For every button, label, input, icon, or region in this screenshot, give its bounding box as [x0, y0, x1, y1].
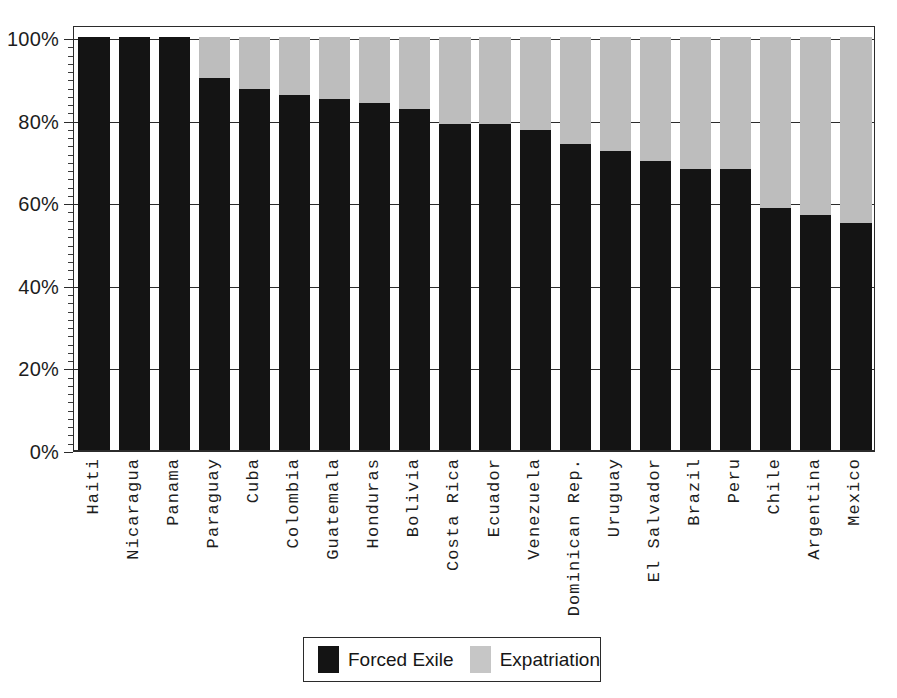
gridline-20 [74, 369, 874, 370]
bar-segment-forced-exile [199, 78, 230, 450]
bar-column [279, 37, 310, 450]
bar-segment-expatriation [239, 37, 270, 89]
x-axis-label: Brazil [675, 458, 715, 630]
x-axis-label: Argentina [795, 458, 835, 630]
bar-segment-forced-exile [399, 109, 430, 450]
x-axis-label: Ecuador [474, 458, 514, 630]
x-axis-label-text: Nicaragua [125, 458, 142, 560]
bar-column [600, 37, 631, 450]
bar-segment-forced-exile [119, 37, 150, 450]
x-axis-label: Peru [715, 458, 755, 630]
x-axis-label: Mexico [835, 458, 875, 630]
x-axis-label: Guatemala [314, 458, 354, 630]
x-axis-label-text: Bolivia [405, 458, 422, 537]
bar-column [78, 37, 109, 450]
bar-column [399, 37, 430, 450]
y-tick-label-0%: 0% [30, 441, 59, 464]
bar-column [720, 37, 751, 450]
x-axis-label-text: Chile [766, 458, 783, 515]
bar-column [760, 37, 791, 450]
bar-column [520, 37, 551, 450]
x-axis-label-text: Paraguay [205, 458, 222, 548]
y-tick-label-40%: 40% [18, 275, 59, 298]
bar-segment-forced-exile [640, 161, 671, 450]
x-axis-label: Panama [153, 458, 193, 630]
bar-column [239, 37, 270, 450]
bar-column [479, 37, 510, 450]
bar-segment-forced-exile [319, 99, 350, 450]
black-swatch-icon [318, 646, 339, 673]
bar-segment-expatriation [680, 37, 711, 169]
bar-segment-expatriation [840, 37, 871, 223]
x-axis-label: Paraguay [193, 458, 233, 630]
bar-segment-expatriation [720, 37, 751, 169]
bar-segment-forced-exile [159, 37, 190, 450]
x-axis-label-text: Haiti [85, 458, 102, 515]
x-axis-label: Nicaragua [113, 458, 153, 630]
bar-chart: 0%20%40%60%80%100% HaitiNicaraguaPanamaP… [0, 0, 897, 698]
y-tick-40 [64, 287, 73, 288]
bar-segment-expatriation [359, 37, 390, 103]
x-axis-label: Cuba [233, 458, 273, 630]
x-axis-labels: HaitiNicaraguaPanamaParaguayCubaColombia… [73, 458, 875, 633]
y-tick-label-60%: 60% [18, 193, 59, 216]
x-axis-label-text: Guatemala [325, 458, 342, 560]
x-axis-label-text: Argentina [806, 458, 823, 560]
bar-column [840, 37, 871, 450]
x-axis-label-text: Peru [726, 458, 743, 503]
bar-segment-forced-exile [78, 37, 109, 450]
bar-segment-forced-exile [840, 223, 871, 450]
x-axis-label: Uruguay [594, 458, 634, 630]
bar-column [640, 37, 671, 450]
x-axis-label-text: Panama [165, 458, 182, 526]
x-axis-label-text: Mexico [846, 458, 863, 526]
bar-segment-expatriation [439, 37, 470, 124]
chart-legend: Forced Exile Expatriation [303, 637, 601, 682]
y-tick-label-20%: 20% [18, 358, 59, 381]
bar-segment-forced-exile [720, 169, 751, 450]
y-tick-20 [64, 369, 73, 370]
x-axis-label-text: Colombia [285, 458, 302, 548]
x-axis-label-text: Uruguay [606, 458, 623, 537]
bar-segment-expatriation [520, 37, 551, 130]
x-axis-label: Haiti [73, 458, 113, 630]
bar-column [119, 37, 150, 450]
gridline-80 [74, 122, 874, 123]
bar-segment-forced-exile [359, 103, 390, 450]
x-axis-label-text: Costa Rica [445, 458, 462, 571]
x-axis-label-text: El Salvador [646, 458, 663, 582]
gridline-60 [74, 204, 874, 205]
x-axis-label-text: Cuba [245, 458, 262, 503]
bar-column [359, 37, 390, 450]
bar-segment-expatriation [319, 37, 350, 99]
bar-segment-expatriation [199, 37, 230, 78]
bar-column [800, 37, 831, 450]
x-axis-label: Chile [755, 458, 795, 630]
legend-label-forced-exile: Forced Exile [348, 649, 454, 671]
y-axis: 0%20%40%60%80%100% [0, 0, 73, 698]
bar-segment-expatriation [600, 37, 631, 151]
x-axis-label: Dominican Rep. [554, 458, 594, 630]
bar-segment-forced-exile [680, 169, 711, 450]
x-axis-label-text: Ecuador [486, 458, 503, 537]
y-tick-60 [64, 204, 73, 205]
bar-segment-forced-exile [279, 95, 310, 450]
bar-segment-expatriation [399, 37, 430, 109]
bar-segment-expatriation [760, 37, 791, 208]
x-axis-label-text: Venezuela [526, 458, 543, 560]
bar-segment-forced-exile [439, 124, 470, 450]
x-axis-label: El Salvador [634, 458, 674, 630]
x-axis-label-text: Dominican Rep. [566, 458, 583, 616]
bar-column [319, 37, 350, 450]
bar-segment-expatriation [640, 37, 671, 161]
y-tick-label-100%: 100% [7, 28, 59, 51]
bar-column [199, 37, 230, 450]
y-tick-100 [64, 39, 73, 40]
x-axis-label: Venezuela [514, 458, 554, 630]
bar-segment-expatriation [560, 37, 591, 144]
gridline-100 [74, 39, 874, 40]
bar-column [159, 37, 190, 450]
bar-segment-expatriation [279, 37, 310, 95]
x-axis-label: Colombia [274, 458, 314, 630]
x-axis-label: Costa Rica [434, 458, 474, 630]
